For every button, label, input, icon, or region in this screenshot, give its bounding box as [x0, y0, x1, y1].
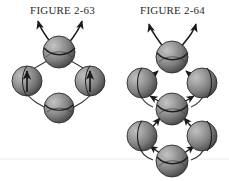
figure-sheet: FIGURE 2-63 FIGURE 2-64 — [0, 0, 229, 181]
sphere-bottom-2-64 — [156, 145, 188, 177]
sphere-top-2-64 — [156, 41, 188, 73]
sphere-bottom-2-63 — [44, 93, 74, 123]
sphere-right-2-63 — [75, 66, 105, 96]
sphere-left-2-63 — [12, 66, 42, 96]
sphere-lower-right-2-64 — [187, 121, 217, 151]
sphere-lower-left-2-64 — [127, 121, 157, 151]
figure-2-63-diagram — [12, 21, 105, 123]
sphere-upper-left-2-64 — [127, 68, 157, 98]
figure-2-64-diagram — [127, 24, 217, 177]
sphere-top-2-63 — [43, 36, 75, 68]
sphere-middle-2-64 — [156, 93, 188, 125]
sphere-upper-right-2-64 — [187, 68, 217, 98]
diagram-stage — [0, 0, 229, 181]
